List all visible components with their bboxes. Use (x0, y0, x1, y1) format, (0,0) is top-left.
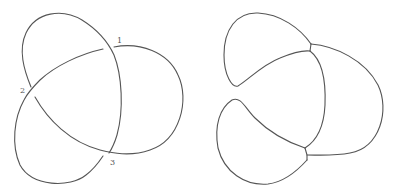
figure-canvas: 1 2 3 (0, 0, 397, 193)
crossing-label-3: 3 (110, 158, 115, 167)
crossing-label-1: 1 (117, 36, 122, 45)
smoothed-top-left-lobe (224, 13, 311, 86)
smoothed-diagram (217, 13, 383, 184)
crossing-label-2: 2 (20, 86, 25, 95)
smoothed-inner-strand (305, 51, 325, 148)
smoothed-junction-top (310, 44, 311, 51)
trefoil-diagram: 1 2 3 (15, 13, 183, 183)
smoothed-junction-bottom (305, 148, 307, 160)
trefoil-strand-left-loop (15, 49, 103, 183)
trefoil-strand-right-loop (35, 46, 183, 154)
smoothed-bottom-left-lobe (217, 99, 307, 184)
